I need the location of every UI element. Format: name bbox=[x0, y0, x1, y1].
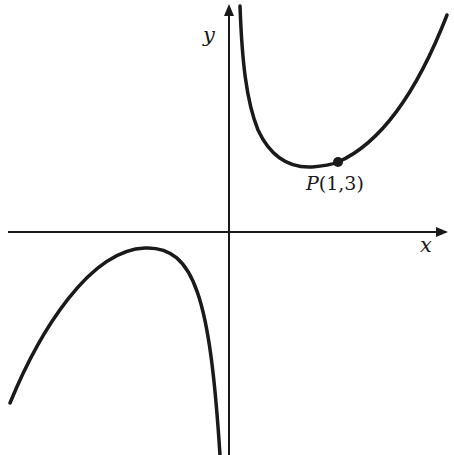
point-p-label: P(1,3) bbox=[306, 174, 364, 193]
point-p-name: P bbox=[306, 172, 319, 194]
point-p-marker bbox=[333, 157, 343, 167]
point-p-coords: (1,3) bbox=[319, 172, 364, 194]
y-axis-label: y bbox=[203, 25, 215, 46]
x-axis-label: x bbox=[420, 235, 432, 256]
graph-canvas bbox=[0, 0, 454, 455]
curve-left-branch bbox=[10, 248, 220, 455]
curve-right-branch bbox=[240, 6, 447, 167]
